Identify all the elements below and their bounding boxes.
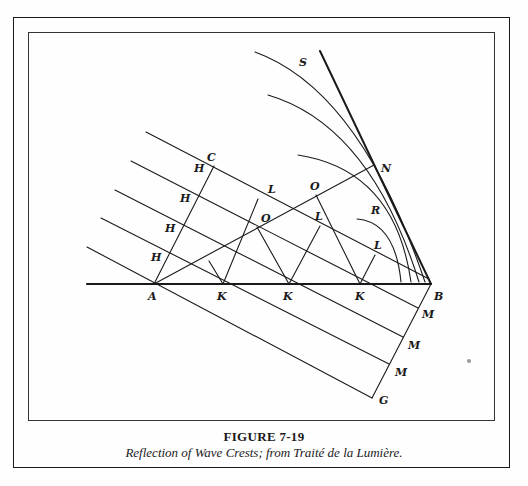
label-K: K — [354, 290, 365, 303]
label-S: S — [299, 56, 307, 69]
crest-segment-line — [223, 199, 258, 284]
crest-segment-line — [257, 227, 289, 284]
label-H: H — [150, 251, 162, 264]
wavelet-arc — [268, 95, 419, 282]
label-M: M — [421, 308, 435, 321]
label-M: M — [394, 366, 408, 379]
figure-page: S C N R A B G H H H H K K K L L L O O M … — [0, 0, 528, 486]
label-O: O — [310, 180, 320, 193]
label-N: N — [380, 162, 392, 175]
wavefront-BG-line — [372, 284, 431, 398]
figure-title: FIGURE 7-19 — [0, 429, 528, 445]
figure-caption: Reflection of Wave Crests; from Traité d… — [0, 445, 528, 461]
crest-segment-line — [209, 261, 223, 284]
label-A: A — [147, 290, 157, 303]
label-C: C — [207, 151, 216, 164]
label-O: O — [261, 212, 271, 225]
dust-speck — [467, 359, 471, 363]
label-K: K — [216, 290, 227, 303]
wavefront-AC-line — [154, 166, 214, 284]
label-L: L — [314, 210, 323, 223]
label-L: L — [373, 239, 382, 252]
label-H: H — [179, 192, 191, 205]
label-G: G — [379, 394, 388, 407]
wave-reflection-diagram: S C N R A B G H H H H K K K L L L O O M … — [0, 0, 528, 486]
label-B: B — [433, 290, 443, 303]
incident-ray-line — [146, 132, 429, 279]
label-H: H — [164, 222, 176, 235]
label-M: M — [407, 339, 421, 352]
incident-ray-line — [101, 218, 389, 364]
label-R: R — [370, 204, 380, 217]
label-L: L — [267, 183, 276, 196]
label-H: H — [193, 162, 205, 175]
crest-segment-line — [360, 255, 375, 284]
label-K: K — [282, 290, 293, 303]
wavelet-arc — [255, 52, 425, 282]
